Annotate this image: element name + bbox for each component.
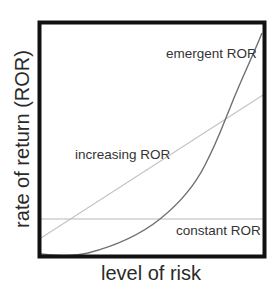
constant-ror-label: constant ROR — [176, 223, 261, 238]
risk-return-chart: emergent ROR increasing ROR constant ROR… — [0, 0, 278, 292]
x-axis-label: level of risk — [101, 262, 202, 284]
emergent-ror-label: emergent ROR — [166, 46, 257, 61]
increasing-ror-label: increasing ROR — [75, 147, 171, 162]
y-axis-label: rate of return (ROR) — [11, 50, 33, 228]
